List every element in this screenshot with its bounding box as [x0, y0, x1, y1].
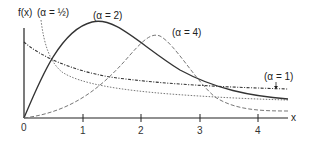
x-tick-label-2: 2: [138, 125, 144, 136]
label-alpha-4: (α = 4): [172, 27, 201, 38]
label-alpha-1: (α = 1): [264, 71, 293, 82]
curve-alpha-1: [24, 42, 288, 89]
curve-alpha-4: [24, 35, 288, 118]
x-tick-label-4: 4: [255, 125, 261, 136]
label-alpha-half: (α = ½): [37, 7, 69, 18]
label-alpha-2: (α = 2): [93, 10, 122, 21]
weibull-pdf-chart: 0 1 2 3 4 x f(x) (α = ½) (α = 2) (α = 4)…: [0, 0, 309, 144]
x-tick-label-0: 0: [21, 122, 27, 133]
x-axis-label: x: [291, 112, 296, 123]
x-tick-label-1: 1: [80, 125, 86, 136]
curve-alpha-2: [24, 21, 288, 118]
x-tick-label-3: 3: [197, 125, 203, 136]
y-axis-label: f(x): [18, 7, 32, 18]
